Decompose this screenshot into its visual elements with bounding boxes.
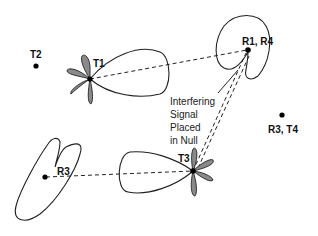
annotation-line-3: Placed <box>170 122 201 133</box>
interference-annotation: Interfering Signal Placed in Null <box>170 96 215 146</box>
r3t4-node-dot <box>279 112 284 117</box>
r1r4-node-dot <box>245 47 251 53</box>
r3-label: R3 <box>57 166 70 177</box>
annotation-line-4: in Null <box>170 135 198 146</box>
t3-label: T3 <box>178 153 190 164</box>
t1-main-lobe <box>90 49 169 96</box>
r1r4-label: R1, R4 <box>242 36 274 47</box>
annotation-pointer <box>218 70 238 93</box>
r3-node-dot <box>42 174 47 179</box>
annotation-line-2: Signal <box>170 109 198 120</box>
beamforming-diagram: T2 T1 R1, R4 R3, T4 R3 T3 Interfering Si… <box>0 0 318 236</box>
t2-node-dot <box>33 63 38 68</box>
annotation-line-1: Interfering <box>170 96 215 107</box>
r3-reception-lobe <box>15 138 81 220</box>
t1-label: T1 <box>93 58 105 69</box>
link-t3-r1-b <box>198 54 250 168</box>
r3t4-label: R3, T4 <box>268 124 298 135</box>
t1-node-dot <box>87 76 92 81</box>
t3-node-dot <box>190 168 196 174</box>
t2-label: T2 <box>30 49 42 60</box>
